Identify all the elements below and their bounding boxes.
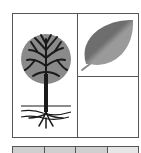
strip-cell [76,147,108,153]
tree-with-roots-icon [13,14,77,137]
bottom-strip [12,146,139,153]
diagram-grid [12,13,139,138]
strip-cell [13,147,45,153]
leaf-panel [78,14,138,76]
strip-cell [45,147,77,153]
strip-cell [108,147,139,153]
tree-panel [13,14,77,137]
leaf-icon [78,14,139,76]
empty-panel [78,77,138,137]
